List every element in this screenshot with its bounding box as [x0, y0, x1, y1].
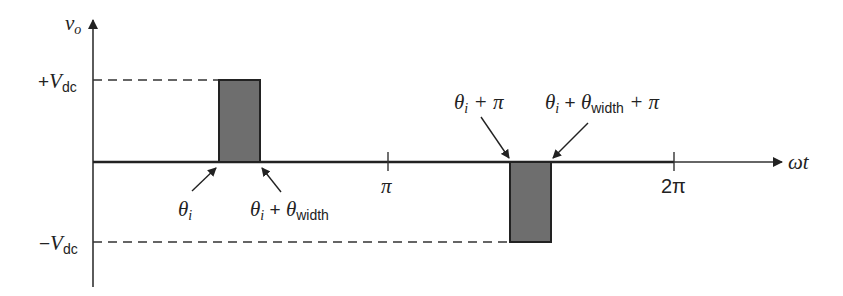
arrow-pulse1-start [192, 168, 216, 191]
x-axis-label: ωt [788, 152, 809, 173]
arrow-pulse2-start [481, 117, 509, 158]
positive-level-label: +Vdc [38, 71, 77, 94]
tick-label-pi: π [381, 176, 392, 197]
arrow-pulse2-end [553, 123, 588, 158]
waveform-diagram [0, 0, 843, 296]
tick-label-2pi: 2π [661, 176, 686, 196]
y-axis-label: vo [65, 13, 81, 37]
negative-pulse [510, 162, 551, 242]
arrow-pulse1-end [262, 168, 281, 192]
annotation-pulse2-end: θi + θwidth + π [545, 92, 659, 116]
annotation-pulse1-end: θi + θwidth [250, 199, 329, 223]
negative-level-label: −Vdc [39, 233, 78, 256]
annotation-pulse2-start: θi + π [454, 92, 503, 116]
positive-pulse [219, 80, 260, 162]
annotation-pulse1-start: θi [178, 199, 192, 223]
